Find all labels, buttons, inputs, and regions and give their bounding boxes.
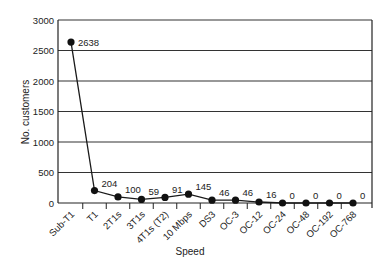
data-label: 100 [125,184,141,195]
y-tick-label: 1500 [33,106,54,117]
x-tick-label: Sub-T1 [47,209,77,239]
x-tick-label: OC-12 [237,209,265,237]
x-tick-label: 2T1s [101,208,124,231]
data-point [67,38,74,45]
data-point [161,194,168,201]
data-label: 0 [290,190,295,201]
data-label: 2638 [78,37,99,48]
data-point [208,197,215,204]
data-label: 0 [360,190,365,201]
chart-canvas: 050010001500200025003000 Sub-T1T12T1s3T1… [0,0,389,261]
y-tick-label: 500 [38,167,54,178]
data-point [138,196,145,203]
data-point [255,198,262,205]
y-tick-label: 2000 [33,76,54,87]
data-point [185,191,192,198]
data-point [279,199,286,206]
data-label: 16 [266,189,277,200]
y-tick-label: 1000 [33,137,54,148]
data-label: 59 [149,186,160,197]
data-series: 263820410059911454646160000 [67,37,365,207]
data-label: 91 [172,184,183,195]
x-tick-label: OC-24 [260,209,288,237]
x-axis-label: Speed [176,246,205,257]
data-point [91,187,98,194]
data-point [326,199,333,206]
data-label: 145 [196,181,212,192]
y-tick-label: 2500 [33,45,54,56]
data-point [349,199,356,206]
x-tick-label: DS3 [197,209,218,230]
y-tick-label: 0 [49,198,54,209]
gridlines [58,20,372,173]
x-tick-label: T1 [84,209,100,225]
y-axis-label: No. customers [20,80,31,144]
data-label: 46 [243,187,254,198]
data-point [114,193,121,200]
y-tick-label: 3000 [33,15,54,26]
data-label: 204 [102,178,118,189]
x-axis: Sub-T1T12T1s3T1s4T1s (T2)10 MbpsDS3OC-3O… [47,203,372,246]
customers-by-speed-chart: 050010001500200025003000 Sub-T1T12T1s3T1… [0,0,389,261]
data-label: 0 [337,190,342,201]
data-label: 0 [313,190,318,201]
data-point [302,199,309,206]
data-point [232,197,239,204]
data-label: 46 [219,187,230,198]
